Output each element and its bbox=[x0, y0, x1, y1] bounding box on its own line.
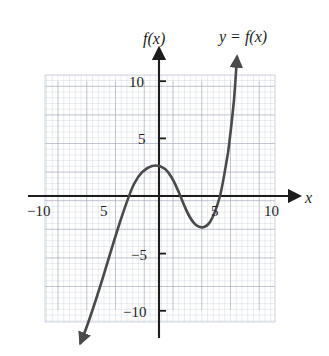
y-axis-label: f(x) bbox=[143, 30, 165, 48]
ytick-label-neg5: −5 bbox=[131, 247, 147, 263]
xtick-label-10: 10 bbox=[264, 203, 279, 219]
x-axis-label: x bbox=[304, 189, 312, 206]
xtick-label-neg5: 5 bbox=[100, 203, 108, 219]
graph-figure: f(x) y = f(x) x −10 5 5 10 10 5 −5 −10 bbox=[0, 0, 329, 356]
xtick-label-neg10: −10 bbox=[27, 203, 50, 219]
ytick-label-5: 5 bbox=[138, 131, 146, 147]
function-equation-label: y = f(x) bbox=[217, 28, 267, 46]
xtick-label-5: 5 bbox=[211, 203, 219, 219]
ytick-label-neg10: −10 bbox=[123, 304, 146, 320]
coordinate-plane-svg: f(x) y = f(x) x −10 5 5 10 10 5 −5 −10 bbox=[0, 0, 329, 356]
ytick-label-10: 10 bbox=[129, 74, 144, 90]
